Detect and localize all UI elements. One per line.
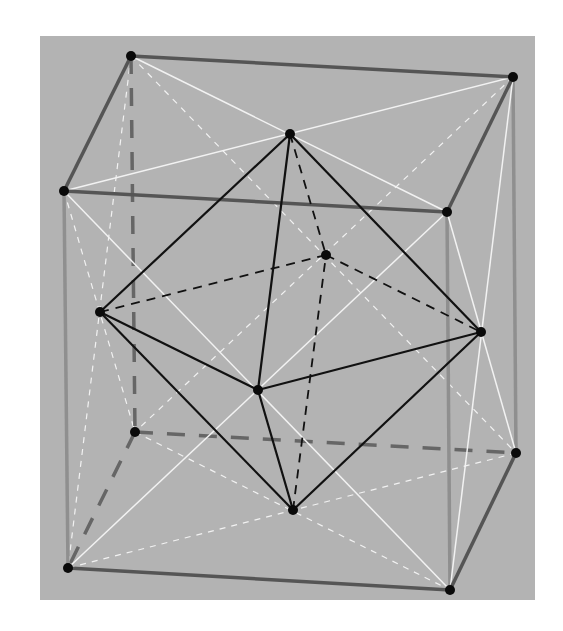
hidden-cube-edge-A-E [131, 56, 135, 432]
cube-edge-D-C [64, 191, 447, 212]
octahedron-edge-Bo-R [293, 332, 481, 510]
vertex-dot-Bk [321, 250, 331, 260]
vertex-dot-R [476, 327, 486, 337]
cube-edge-A-B [131, 56, 513, 77]
vertex-dot-F [511, 448, 521, 458]
vertex-dot-Bo [288, 505, 298, 515]
octahedron-edge-T-L [100, 134, 290, 312]
vertex-dot-C [59, 186, 69, 196]
hidden-octahedron-edge-Bk-R [326, 255, 481, 332]
vertex-dot-B [508, 72, 518, 82]
hidden-octahedron-edge-Bo-Bk [293, 255, 326, 510]
vertical-cube-edge-D-H [447, 212, 450, 590]
octahedron-in-cube-diagram [0, 0, 563, 631]
vertex-dot-G [63, 563, 73, 573]
vertical-cube-edge-B-F [513, 77, 516, 453]
hidden-cube-edge-E-G [68, 432, 135, 568]
cube-edge-G-H [68, 568, 450, 590]
hidden-octahedron-edges [100, 134, 481, 510]
vertex-dot-T [285, 129, 295, 139]
octahedron-edge-L-Fr [100, 312, 258, 390]
octahedron-edge-T-Fr [258, 134, 290, 390]
cube-edge-H-F [450, 453, 516, 590]
vertical-cube-edge-C-G [64, 191, 68, 568]
vertex-dot-A [126, 51, 136, 61]
figure-stage [0, 0, 563, 631]
hidden-cube-edge-E-F [135, 432, 516, 453]
cube-edge-C-A [64, 56, 131, 191]
cube-edge-B-D [447, 77, 513, 212]
vertex-points [59, 51, 521, 595]
visible-octahedron-edges [100, 134, 481, 510]
vertex-dot-L [95, 307, 105, 317]
vertex-dot-D [442, 207, 452, 217]
vertex-dot-H [445, 585, 455, 595]
vertex-dot-Fr [253, 385, 263, 395]
vertex-dot-E [130, 427, 140, 437]
